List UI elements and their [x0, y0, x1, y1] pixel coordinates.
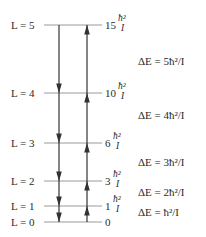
- transition-label-2-1: ΔE = 2ħ²/I: [138, 187, 185, 198]
- energy-unit-den-2: I: [116, 180, 119, 190]
- absorption-arrow: [85, 25, 89, 222]
- level-label-3: L = 3: [11, 138, 35, 149]
- transition-label-3-2: ΔE = 3ħ²/I: [138, 157, 185, 168]
- energy-value-4: 10: [105, 88, 116, 99]
- energy-value-5: 15: [105, 20, 116, 31]
- energy-value-3: 6: [105, 138, 111, 149]
- energy-value-0: 0: [105, 217, 111, 228]
- energy-value-2: 3: [105, 176, 111, 187]
- energy-unit-den-1: I: [116, 205, 119, 215]
- emission-arrow: [57, 25, 61, 222]
- energy-value-1: 1: [105, 201, 111, 212]
- level-label-0: L = 0: [11, 217, 35, 228]
- level-label-1: L = 1: [11, 201, 35, 212]
- transition-label-4-3: ΔE = 4ħ²/I: [138, 110, 185, 121]
- energy-unit-den-4: I: [121, 92, 124, 102]
- transition-label-1-0: ΔE = ħ²/I: [138, 207, 179, 218]
- energy-unit-den-5: I: [121, 24, 124, 34]
- transition-label-5-4: ΔE = 5ħ²/I: [138, 56, 185, 67]
- level-label-4: L = 4: [11, 88, 35, 99]
- level-label-5: L = 5: [11, 20, 35, 31]
- level-label-2: L = 2: [11, 176, 35, 187]
- energy-unit-den-3: I: [116, 142, 119, 152]
